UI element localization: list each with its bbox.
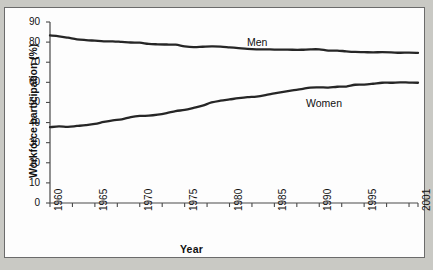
- plot-area: [0, 0, 433, 270]
- y-tick-label: 10: [18, 178, 40, 188]
- y-tick-label: 90: [18, 17, 40, 27]
- y-tick-label: 20: [18, 158, 40, 168]
- x-tick-label: 1980: [234, 189, 244, 211]
- series-label-women: Women: [306, 97, 342, 109]
- y-tick-label: 80: [18, 37, 40, 47]
- axes: [50, 22, 418, 203]
- x-tick-label: 1975: [189, 189, 199, 211]
- x-tick-label: 1990: [323, 189, 333, 211]
- y-tick-label: 60: [18, 77, 40, 87]
- data-series: [50, 35, 418, 127]
- y-tick-label: 30: [18, 138, 40, 148]
- y-tick-label: 50: [18, 97, 40, 107]
- x-tick-label: 1965: [99, 189, 109, 211]
- x-tick-label: 1995: [368, 189, 378, 211]
- y-tick-label: 0: [18, 198, 40, 208]
- line-chart: Workforce participation (%) Year 0102030…: [0, 0, 433, 270]
- series-label-men: Men: [247, 36, 267, 48]
- tick-marks: [46, 22, 418, 207]
- screenshot-stage: Workforce participation (%) Year 0102030…: [0, 0, 433, 270]
- y-tick-label: 40: [18, 118, 40, 128]
- x-axis-title: Year: [180, 243, 203, 255]
- x-tick-label: 1960: [54, 189, 64, 211]
- x-tick-label: 2001: [422, 189, 432, 211]
- y-tick-label: 70: [18, 57, 40, 67]
- x-tick-label: 1985: [278, 189, 288, 211]
- x-tick-label: 1970: [144, 189, 154, 211]
